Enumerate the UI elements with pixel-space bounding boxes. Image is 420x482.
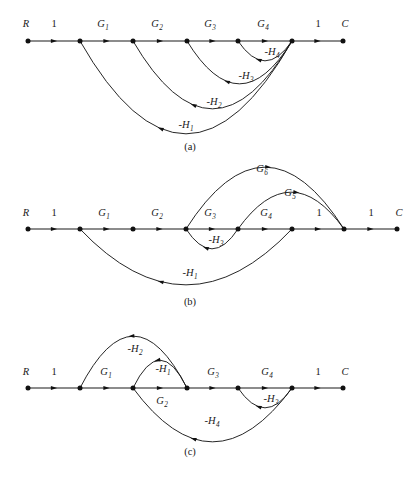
node-a-n4 <box>185 39 190 44</box>
branch-gain-label-b-6: 1 <box>368 207 373 218</box>
forward-arrow-b-6 <box>367 227 373 231</box>
svg-text:(c): (c) <box>184 446 196 458</box>
branch-gain-label-b-4: G4 <box>260 207 272 221</box>
feedback-arc-label-c-0: -H3 <box>263 393 278 407</box>
node-a-n5 <box>236 39 241 44</box>
svg-text:-H1: -H1 <box>182 267 197 281</box>
forward-arrow-a-1 <box>103 39 109 43</box>
svg-text:G4: G4 <box>260 207 272 221</box>
forward-arrow-b-3 <box>209 227 215 231</box>
panel-c: 1G1G3G41-H2-H1-H3-H4G2RC(c) <box>22 334 350 458</box>
endpoint-label-b-R: R <box>22 207 30 218</box>
feedback-arc-arrow-c-1 <box>191 438 197 442</box>
endpoint-label-a-R: R <box>22 18 30 29</box>
svg-text:(a): (a) <box>184 141 196 153</box>
upper-arc-label-b-1: G5 <box>284 187 296 201</box>
feedback-arc-arrow-a-1 <box>224 80 230 84</box>
svg-text:-H4: -H4 <box>204 415 219 429</box>
forward-arrow-c-0 <box>51 386 57 390</box>
feedback-arc-arrow-a-0 <box>256 59 262 63</box>
node-b-n4 <box>184 227 189 232</box>
node-b-C <box>395 227 400 232</box>
branch-gain-label-a-3: G3 <box>204 18 216 32</box>
branch-gain-label-a-0: 1 <box>51 18 56 29</box>
svg-text:C: C <box>395 207 403 218</box>
extra-label-c-0: G2 <box>156 395 168 409</box>
svg-text:G3: G3 <box>207 366 219 380</box>
feedback-arc-label-a-2: -H2 <box>206 96 221 110</box>
svg-text:1: 1 <box>368 207 373 218</box>
branch-gain-label-c-1: G1 <box>100 366 112 380</box>
forward-arrow-a-2 <box>157 39 163 43</box>
panel-caption-b: (b) <box>184 296 197 308</box>
svg-text:G3: G3 <box>204 18 216 32</box>
branch-gain-label-b-5: 1 <box>316 207 321 218</box>
feedback-arc-arrow-a-3 <box>158 127 164 131</box>
node-c-C <box>341 386 346 391</box>
forward-arrow-a-4 <box>262 39 268 43</box>
upper-arc-label-c-0: -H2 <box>127 343 142 357</box>
node-a-n2 <box>78 39 83 44</box>
feedback-arc-label-a-3: -H1 <box>178 119 193 133</box>
branch-gain-label-b-1: G1 <box>98 207 110 221</box>
svg-text:G1: G1 <box>98 207 110 221</box>
branch-gain-label-a-1: G1 <box>97 18 109 32</box>
node-c-n5 <box>236 386 241 391</box>
forward-arrow-c-4 <box>314 386 320 390</box>
panel-caption-c: (c) <box>184 446 196 458</box>
svg-text:G3: G3 <box>204 207 216 221</box>
svg-text:1: 1 <box>51 207 56 218</box>
panel-b: 1G1G2G3G411G6G5-H3-H1RC(b) <box>22 163 404 308</box>
branch-gain-label-a-4: G4 <box>257 18 269 32</box>
node-b-n3 <box>131 227 136 232</box>
feedback-arc-label-a-1: -H3 <box>238 70 253 84</box>
node-b-n2 <box>78 227 83 232</box>
svg-text:1: 1 <box>316 207 321 218</box>
feedback-arc-label-c-1: -H4 <box>204 415 219 429</box>
svg-text:-H4: -H4 <box>264 46 279 60</box>
svg-text:C: C <box>341 366 349 377</box>
svg-text:G2: G2 <box>151 207 163 221</box>
upper-arc-label-b-0: G6 <box>256 163 268 177</box>
panel-a: 1G1G2G3G41-H4-H3-H2-H1RC(a) <box>22 18 350 153</box>
svg-text:-H3: -H3 <box>263 393 278 407</box>
svg-text:R: R <box>22 18 30 29</box>
node-c-n2 <box>78 386 83 391</box>
svg-text:-H2: -H2 <box>206 96 221 110</box>
node-b-n6 <box>290 227 295 232</box>
branch-gain-label-c-0: 1 <box>51 366 56 377</box>
svg-text:G6: G6 <box>256 163 268 177</box>
svg-text:G4: G4 <box>257 18 269 32</box>
node-b-n7 <box>342 227 347 232</box>
svg-text:-H3: -H3 <box>208 234 223 248</box>
feedback-arc-arrow-a-2 <box>191 104 197 108</box>
node-b-R <box>26 227 31 232</box>
endpoint-label-a-C: C <box>341 18 349 29</box>
svg-text:-H2: -H2 <box>127 343 142 357</box>
branch-gain-label-a-5: 1 <box>315 18 320 29</box>
svg-text:(b): (b) <box>184 296 197 308</box>
endpoint-label-c-R: R <box>22 366 30 377</box>
forward-arrow-c-3 <box>262 386 268 390</box>
svg-text:1: 1 <box>315 366 320 377</box>
node-a-n3 <box>131 39 136 44</box>
branch-gain-label-b-3: G3 <box>204 207 216 221</box>
feedback-arc-arrow-c-0 <box>256 406 262 410</box>
upper-arc-arrow-c-1 <box>154 358 160 362</box>
svg-text:G4: G4 <box>261 366 273 380</box>
svg-text:C: C <box>341 18 349 29</box>
svg-text:G5: G5 <box>284 187 296 201</box>
branch-gain-label-c-4: 1 <box>315 366 320 377</box>
forward-arrow-a-0 <box>51 39 57 43</box>
branch-gain-label-b-2: G2 <box>151 207 163 221</box>
node-b-n5 <box>236 227 241 232</box>
feedback-arc-label-b-0: -H3 <box>208 234 223 248</box>
endpoint-label-b-C: C <box>395 207 403 218</box>
node-a-C <box>341 39 346 44</box>
forward-arrow-b-0 <box>51 227 57 231</box>
signal-flow-graph-figure: 1G1G2G3G41-H4-H3-H2-H1RC(a)1G1G2G3G411G6… <box>0 0 420 482</box>
feedback-arc-arrow-b-0 <box>203 247 209 251</box>
branch-gain-label-c-2: G3 <box>207 366 219 380</box>
svg-text:G2: G2 <box>156 395 168 409</box>
forward-arrow-c-2 <box>209 386 215 390</box>
